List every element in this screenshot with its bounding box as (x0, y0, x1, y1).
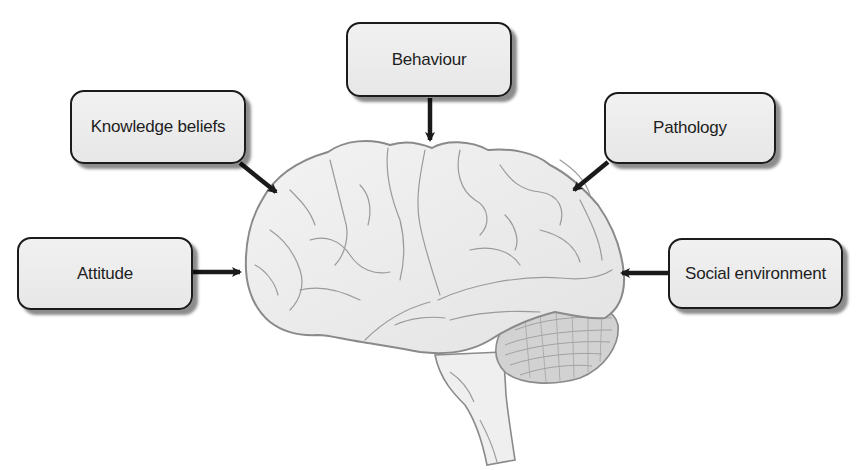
node-label-behaviour: Behaviour (392, 50, 467, 70)
node-label-pathology: Pathology (653, 118, 727, 138)
node-social-environment: Social environment (668, 238, 843, 309)
arrow-knowledge (240, 163, 276, 192)
node-label-knowledge-beliefs: Knowledge beliefs (91, 117, 226, 137)
node-label-attitude: Attitude (77, 264, 133, 284)
node-knowledge-beliefs: Knowledge beliefs (70, 90, 246, 164)
node-label-social-environment: Social environment (685, 264, 826, 284)
node-pathology: Pathology (604, 92, 776, 164)
node-behaviour: Behaviour (346, 22, 512, 97)
node-attitude: Attitude (17, 237, 193, 310)
